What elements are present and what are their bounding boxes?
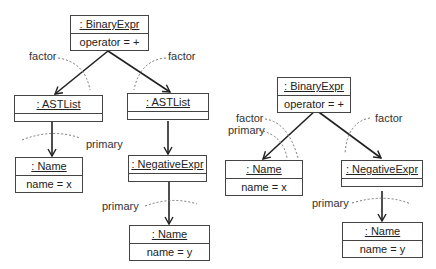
object-header: : Name [130, 226, 209, 244]
factor-label: factor [375, 112, 403, 124]
object-header: : NegativeExpr [129, 156, 206, 174]
primary-label: primary [228, 124, 265, 136]
factor-label: factor [236, 112, 264, 124]
object-attribute: name = y [343, 241, 422, 257]
left-binaryexpr-object: : BinaryExpr operator = + [70, 15, 149, 51]
object-attribute: operator = + [278, 96, 350, 112]
negativeexpr-object: : NegativeExpr [128, 155, 207, 182]
object-header: : BinaryExpr [278, 78, 350, 96]
factor-label: factor [168, 50, 196, 62]
name-y-object: : Name name = y [342, 222, 423, 258]
right-astlist-object: : ASTList [127, 93, 209, 120]
primary-label: primary [102, 200, 139, 212]
object-header: : ASTList [128, 94, 208, 112]
object-header: : NegativeExpr [342, 161, 422, 179]
object-attribute: name = x [226, 179, 302, 195]
object-attribute: operator = + [71, 34, 148, 50]
object-header: : BinaryExpr [71, 16, 148, 34]
object-header: : Name [226, 161, 302, 179]
right-binaryexpr-object: : BinaryExpr operator = + [277, 77, 351, 113]
object-header: : ASTList [15, 96, 102, 114]
name-x-object: : Name name = x [15, 157, 83, 193]
left-astlist-object: : ASTList [14, 95, 103, 122]
object-attribute: name = y [130, 244, 209, 260]
name-y-object: : Name name = y [129, 225, 210, 261]
primary-label: primary [312, 197, 349, 209]
factor-label: factor [29, 50, 57, 62]
name-x-object: : Name name = x [225, 160, 303, 196]
object-attribute: name = x [16, 176, 82, 192]
negativeexpr-object: : NegativeExpr [341, 160, 423, 187]
object-header: : Name [343, 223, 422, 241]
primary-label: primary [86, 138, 123, 150]
object-header: : Name [16, 158, 82, 176]
